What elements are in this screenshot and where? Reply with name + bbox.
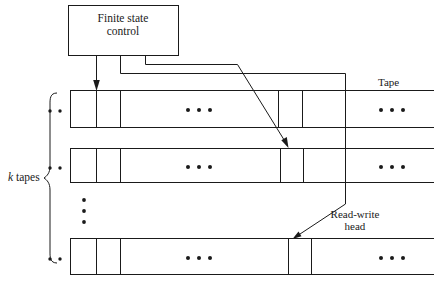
tape1-right-dot-3 xyxy=(401,108,405,112)
finite-state-control-label: Finite state control xyxy=(68,12,178,38)
tape2-inner-dot-3 xyxy=(208,165,212,169)
tape2-inner-dot-2 xyxy=(197,165,201,169)
tape1-right-dot-1 xyxy=(379,108,383,112)
tape1-inner-dot-3 xyxy=(208,108,212,112)
tape-row-2 xyxy=(48,149,434,183)
tape1-inner-dot-1 xyxy=(186,108,190,112)
finite-state-control-label-line2: control xyxy=(68,25,178,38)
tape3-right-dot-1 xyxy=(379,256,383,260)
read-write-head-label-line2: head xyxy=(316,220,394,232)
vertical-ellipsis-dot-1 xyxy=(82,198,86,202)
tape3-inner-dot-3 xyxy=(208,256,212,260)
tape3-right-dot-2 xyxy=(390,256,394,260)
tape2-left-dot-2 xyxy=(58,166,61,169)
tape-label: Tape xyxy=(378,76,399,88)
arrowhead-tape1 xyxy=(93,80,100,91)
arrowhead-tape2 xyxy=(281,137,288,148)
tape2-right-dot-1 xyxy=(379,165,383,169)
tape2-inner-dot-1 xyxy=(186,165,190,169)
k-tapes-brace xyxy=(44,93,57,263)
tape-row-3 xyxy=(48,239,434,275)
turing-machine-diagram: Finite state control Tape k tapes Read-w… xyxy=(0,0,434,284)
tape1-right-dot-2 xyxy=(390,108,394,112)
vertical-ellipsis-dot-2 xyxy=(82,209,86,213)
tape2-right-dot-2 xyxy=(390,165,394,169)
tape2-right-dot-3 xyxy=(401,165,405,169)
tape3-inner-dot-2 xyxy=(197,256,201,260)
tape1-left-dot-2 xyxy=(58,109,61,112)
tape3-right-dot-3 xyxy=(401,256,405,260)
arrowhead-tape3 xyxy=(293,232,302,239)
tape3-left-dot-1 xyxy=(48,257,51,260)
connector-line-tape2 xyxy=(146,56,238,65)
read-write-head-label: Read-write head xyxy=(316,208,394,233)
finite-state-control-label-line1: Finite state xyxy=(68,12,178,25)
connector-line-tape3 xyxy=(121,56,346,205)
tape3-left-dot-2 xyxy=(58,257,61,260)
diagram-canvas xyxy=(0,0,434,284)
vertical-ellipsis xyxy=(82,198,86,224)
tape1-inner-dot-2 xyxy=(197,108,201,112)
k-tapes-label: k tapes xyxy=(8,171,40,184)
vertical-ellipsis-dot-3 xyxy=(82,220,86,224)
tape2-left-dot-1 xyxy=(48,166,51,169)
k-tapes-label-text: tapes xyxy=(13,171,40,183)
tape1-left-dot-1 xyxy=(48,109,51,112)
tape-row-1 xyxy=(48,91,434,128)
read-write-head-label-line1: Read-write xyxy=(316,208,394,220)
tape3-inner-dot-1 xyxy=(186,256,190,260)
